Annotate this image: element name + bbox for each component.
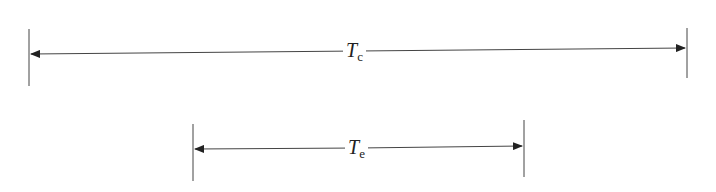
tc-right-arrow — [358, 48, 685, 51]
te-left-arrow — [195, 148, 358, 149]
tc-symbol: T — [346, 39, 357, 61]
te-right-arrow — [358, 146, 522, 148]
te-label: Te — [345, 137, 368, 164]
te-subscript: e — [359, 146, 365, 161]
tc-label: Tc — [343, 40, 366, 67]
te-symbol: T — [348, 136, 359, 158]
tc-left-arrow — [31, 51, 358, 54]
tc-subscript: c — [357, 49, 363, 64]
